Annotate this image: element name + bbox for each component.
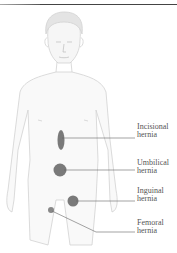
femoral-hernia-marker xyxy=(48,207,54,213)
label-line: hernia xyxy=(137,131,169,139)
umbilical-hernia-label: Umbilical hernia xyxy=(137,159,169,175)
incisional-hernia-marker xyxy=(58,130,65,150)
femoral-hernia-label: Femoral hernia xyxy=(137,219,164,235)
label-line: hernia xyxy=(137,195,164,203)
incisional-hernia-label: Incisional hernia xyxy=(137,123,169,139)
label-line: hernia xyxy=(137,167,169,175)
inguinal-hernia-label: Inguinal hernia xyxy=(137,187,164,203)
label-line: hernia xyxy=(137,227,164,235)
